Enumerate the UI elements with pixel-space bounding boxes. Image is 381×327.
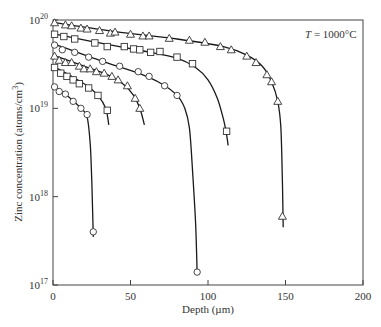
circle-marker (62, 91, 68, 97)
y-tick-label: 1018 (29, 189, 48, 203)
square-marker (95, 92, 101, 98)
triangle-marker (131, 94, 139, 101)
square-marker (189, 61, 195, 67)
circle-marker (90, 229, 96, 235)
triangle-marker (278, 212, 286, 219)
circle-marker (194, 269, 200, 275)
triangle-marker (136, 104, 144, 111)
y-tick-label: 1019 (29, 100, 48, 114)
circle-marker (84, 111, 90, 117)
square-marker (130, 46, 136, 52)
circle-marker (56, 88, 62, 94)
series-line-6 (53, 86, 93, 237)
square-marker (174, 54, 180, 60)
circle-marker (51, 42, 57, 48)
square-marker (104, 107, 110, 113)
circle-marker (135, 68, 141, 74)
y-axis-label: Zinc concentration (atoms/cm3) (11, 82, 25, 222)
square-marker (137, 47, 143, 53)
square-marker (51, 31, 57, 37)
circle-marker (99, 58, 105, 64)
triangle-marker (51, 52, 59, 59)
x-tick-label: 200 (355, 290, 372, 302)
circle-marker (72, 49, 78, 55)
circle-marker (85, 54, 91, 60)
y-tick-label: 1017 (29, 277, 48, 291)
series-line-1 (53, 22, 283, 227)
square-marker (58, 70, 64, 76)
x-tick-label: 100 (200, 290, 217, 302)
square-marker (104, 43, 110, 49)
x-tick-label: 50 (125, 290, 137, 302)
x-axis-ticks: 050100150200 (50, 280, 372, 302)
square-marker (92, 40, 98, 46)
x-tick-label: 150 (277, 290, 294, 302)
square-marker (85, 85, 91, 91)
temperature-annotation: T = 1000°C (305, 28, 357, 40)
y-tick-label: 1020 (29, 12, 48, 26)
x-axis-label: Depth (µm) (182, 303, 234, 316)
square-marker (147, 49, 153, 55)
circle-marker (116, 63, 122, 69)
circle-marker (174, 92, 180, 98)
circle-marker (161, 83, 167, 89)
triangle-marker (274, 97, 282, 104)
triangle-marker (263, 71, 271, 78)
square-marker (76, 81, 82, 87)
x-tick-label: 0 (50, 290, 56, 302)
square-marker (70, 77, 76, 83)
square-marker (121, 43, 127, 49)
triangle-marker (268, 78, 276, 85)
triangle-marker (201, 38, 209, 45)
square-marker (223, 128, 229, 134)
square-marker (157, 48, 163, 54)
circle-marker (70, 98, 76, 104)
triangle-marker (68, 59, 76, 66)
circle-marker (146, 73, 152, 79)
circle-marker (78, 105, 84, 111)
square-marker (61, 33, 67, 39)
square-marker (64, 73, 70, 79)
square-marker (72, 36, 78, 42)
square-marker (51, 64, 57, 70)
triangle-marker (86, 65, 94, 72)
circle-marker (59, 47, 65, 53)
zinc-diffusion-chart: 050100150200 1017101810191020 T = 1000°C… (0, 0, 381, 327)
